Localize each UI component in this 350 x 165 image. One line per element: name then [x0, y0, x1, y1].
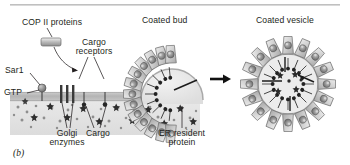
leader-receptor-left	[79, 57, 88, 79]
label-gtp: GTP	[4, 88, 22, 97]
label-coated-vesicle: Coated vesicle	[256, 16, 314, 25]
coated-vesicle	[241, 37, 336, 132]
label-sar1: Sar1	[5, 66, 24, 75]
leader-receptor-right	[94, 57, 104, 79]
bud-lumen	[141, 69, 203, 104]
golgi-enzyme-bars	[60, 85, 74, 103]
label-golgi-enzymes-line2: enzymes	[45, 138, 89, 147]
label-cargo: Cargo	[78, 129, 118, 138]
label-cargo-receptors-line2: receptors	[68, 47, 120, 56]
sar1-protein	[38, 84, 46, 92]
transport-arrow	[210, 75, 231, 84]
panel-letter: (b)	[13, 148, 24, 158]
top-divider-rule	[10, 4, 340, 6]
label-er-resident-line2: protein	[152, 138, 212, 147]
leader-sar1	[30, 73, 40, 85]
label-cop2-proteins: COP II proteins	[22, 18, 82, 27]
cop2-protein-glyph	[41, 38, 61, 46]
label-coated-bud: Coated bud	[142, 16, 187, 25]
leader-cop2	[47, 28, 52, 37]
